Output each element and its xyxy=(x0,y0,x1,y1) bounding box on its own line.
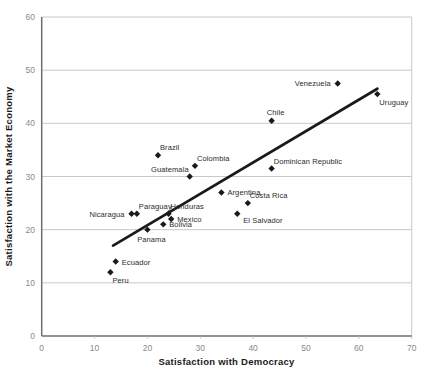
data-point-marker xyxy=(134,211,140,217)
data-point-marker xyxy=(192,163,198,169)
x-tick-label: 60 xyxy=(354,343,364,353)
x-tick-label: 40 xyxy=(248,343,258,353)
y-tick-labels: 0102030405060 xyxy=(26,12,36,341)
data-point-marker xyxy=(268,165,274,171)
data-point-marker xyxy=(374,91,380,97)
x-tick-label: 30 xyxy=(196,343,206,353)
country-label: Mexico xyxy=(177,215,201,224)
x-tick-label: 70 xyxy=(407,343,417,353)
y-tick-label: 30 xyxy=(26,172,36,182)
data-point-marker xyxy=(160,221,166,227)
data-point-marker xyxy=(245,200,251,206)
data-point-marker xyxy=(187,173,193,179)
country-label: Uruguay xyxy=(379,98,408,107)
y-tick-label: 20 xyxy=(26,225,36,235)
country-label: Brazil xyxy=(160,143,180,152)
country-label: Venezuela xyxy=(295,79,332,88)
country-label: Nicaragua xyxy=(89,210,125,219)
x-axis-title: Satisfaction with Democracy xyxy=(158,356,295,367)
x-tick-label: 10 xyxy=(90,343,100,353)
data-point-marker xyxy=(107,269,113,275)
x-tick-label: 20 xyxy=(143,343,153,353)
data-point-marker xyxy=(234,211,240,217)
country-label: Guatemala xyxy=(151,165,189,174)
country-label: Honduras xyxy=(171,202,204,211)
country-label: El Salvador xyxy=(243,216,283,225)
satisfaction-scatter-chart: PeruEcuadorNicaraguaParaguayPanamaBolivi… xyxy=(0,0,425,381)
y-tick-label: 10 xyxy=(26,278,36,288)
country-label: Peru xyxy=(112,276,128,285)
y-tick-label: 50 xyxy=(26,65,36,75)
data-point-marker xyxy=(155,152,161,158)
gridlines xyxy=(42,17,412,283)
country-label: Paraguay xyxy=(139,202,172,211)
data-points xyxy=(107,80,380,275)
x-tick-label: 50 xyxy=(301,343,311,353)
data-point-marker xyxy=(113,258,119,264)
y-axis-title: Satisfaction with the Market Economy xyxy=(3,86,14,266)
data-point-marker xyxy=(218,189,224,195)
country-label: Costa Rica xyxy=(250,191,288,200)
country-label: Dominican Republic xyxy=(274,157,343,166)
country-label: Chile xyxy=(267,108,285,117)
country-label: Panama xyxy=(137,235,166,244)
country-label: Ecuador xyxy=(122,258,151,267)
x-tick-labels: 010203040506070 xyxy=(39,343,416,353)
country-label: Colombia xyxy=(197,154,230,163)
y-tick-label: 0 xyxy=(30,331,35,341)
scatter-plot-figure: PeruEcuadorNicaraguaParaguayPanamaBolivi… xyxy=(0,0,425,381)
y-tick-label: 40 xyxy=(26,118,36,128)
country-labels: PeruEcuadorNicaraguaParaguayPanamaBolivi… xyxy=(89,79,408,285)
x-tick-label: 0 xyxy=(39,343,44,353)
data-point-marker xyxy=(335,80,341,86)
y-tick-label: 60 xyxy=(26,12,36,22)
